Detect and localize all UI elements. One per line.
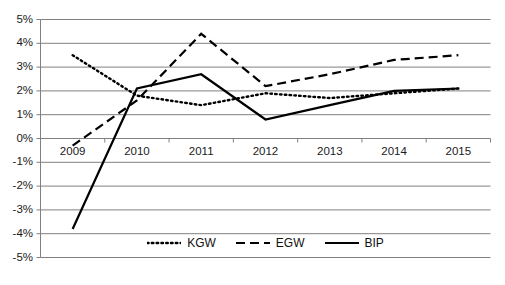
line-chart: 5%4%3%2%1%0%-1%-2%-3%-4%-5% 200920102011… <box>0 0 505 285</box>
x-axis-tick-label: 2015 <box>426 146 490 158</box>
y-axis-tick-label: 2% <box>0 85 33 97</box>
legend-swatch-solid-icon <box>325 238 359 248</box>
y-axis-tick-label: -5% <box>0 252 33 264</box>
legend-item-label: KGW <box>187 237 216 249</box>
legend-item-kgw[interactable]: KGW <box>147 237 216 249</box>
legend-item-egw[interactable]: EGW <box>236 237 305 249</box>
gridlines <box>41 20 491 258</box>
legend-swatch-dotted-icon <box>147 238 181 248</box>
y-axis-tick-label: 1% <box>0 109 33 121</box>
y-axis-tick-label: 3% <box>0 61 33 73</box>
legend-item-bip[interactable]: BIP <box>325 237 384 249</box>
y-axis-tick-label: 5% <box>0 14 33 26</box>
x-axis-tick-label: 2011 <box>169 146 233 158</box>
y-axis-tick-label: -2% <box>0 180 33 192</box>
legend-swatch-dashed-icon <box>236 238 270 248</box>
y-axis-tick-label: 0% <box>0 133 33 145</box>
y-axis-tick-label: -3% <box>0 204 33 216</box>
series-lines <box>73 34 459 229</box>
y-axis-tick-label: -4% <box>0 228 33 240</box>
x-axis-tick-label: 2012 <box>233 146 297 158</box>
legend-item-label: BIP <box>365 237 384 249</box>
legend-item-label: EGW <box>276 237 305 249</box>
series-line-kgw <box>73 55 459 105</box>
x-axis-tick-label: 2014 <box>362 146 426 158</box>
x-axis-tick-label: 2009 <box>41 146 105 158</box>
x-axis-tick-label: 2013 <box>298 146 362 158</box>
chart-legend: KGWEGWBIP <box>41 237 491 249</box>
y-axis-tick-label: -1% <box>0 156 33 168</box>
x-axis-tick-label: 2010 <box>105 146 169 158</box>
y-axis-tick-label: 4% <box>0 37 33 49</box>
